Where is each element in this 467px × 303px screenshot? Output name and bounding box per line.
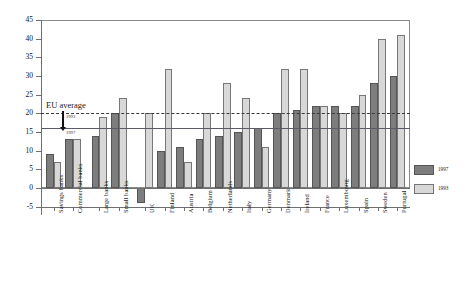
x-axis-category-label: Netherlands <box>226 181 233 213</box>
y-axis-tick-label: 10 <box>0 147 33 155</box>
bar-1993-belgium <box>203 113 211 188</box>
bar-1997-large-banks <box>92 136 100 188</box>
bar-1997-portugal <box>390 76 398 188</box>
bar-1997-netherlands <box>215 136 223 188</box>
y-axis-tick-label: 20 <box>0 109 33 117</box>
bar-1997-austria <box>176 147 184 188</box>
bar-1993-uk <box>145 113 153 188</box>
y-axis-tick <box>36 132 41 133</box>
bar-1997-luxembourg <box>331 106 339 188</box>
bar-1993-luxembourg <box>339 113 347 188</box>
x-axis-category-label: Spain <box>362 198 369 213</box>
x-axis-tick <box>300 207 301 211</box>
y-axis-tick-label: 35 <box>0 53 33 61</box>
bar-1993-austria <box>184 162 192 188</box>
legend-swatch-1993 <box>414 184 434 194</box>
x-axis-category-label: Denmark <box>284 188 291 212</box>
y-axis-tick <box>36 57 41 58</box>
y-axis-tick <box>36 151 41 152</box>
x-axis-category-label: Small banks <box>122 180 129 213</box>
x-axis-tick <box>339 207 340 211</box>
reference-line-1993 <box>41 113 410 114</box>
x-axis-category-label: Portugal <box>400 190 407 212</box>
y-axis-tick-label: 45 <box>0 16 33 24</box>
x-axis-tick <box>378 207 379 211</box>
y-axis-tick-label: 30 <box>0 72 33 80</box>
x-axis-tick <box>73 207 74 211</box>
reference-line-1997 <box>41 128 410 129</box>
x-axis-tick <box>262 207 263 211</box>
y-axis-line <box>41 20 42 215</box>
x-axis-category-label: Italy <box>245 200 252 212</box>
bar-1993-portugal <box>397 35 405 188</box>
x-axis-category-label: Sweden <box>381 192 388 213</box>
bar-1997-france <box>312 106 320 188</box>
x-axis-category-label: Savings banks <box>57 175 64 213</box>
bar-1993-italy <box>242 98 250 188</box>
bar-1993-spain <box>359 95 367 188</box>
bar-1997-sweden <box>370 83 378 188</box>
x-axis-tick <box>281 207 282 211</box>
y-axis-tick-label: 15 <box>0 128 33 136</box>
x-axis-category-label: France <box>323 195 330 213</box>
x-axis-tick <box>184 207 185 211</box>
x-axis-category-label: Austria <box>187 193 194 213</box>
legend-label-1997: 1997 <box>438 166 448 173</box>
x-axis-category-label: Luxembourg <box>342 179 349 213</box>
eu-average-annotation: EU average <box>46 101 86 110</box>
bar-1997-italy <box>234 132 242 188</box>
y-axis-tick <box>36 76 41 77</box>
y-axis-tick-label: 40 <box>0 35 33 43</box>
x-axis-category-label: Ireland <box>303 194 310 213</box>
bar-1993-netherlands <box>223 83 231 188</box>
bar-1997-germany <box>254 128 262 188</box>
y-axis-tick-label: -5 <box>0 203 33 211</box>
x-axis-tick <box>320 207 321 211</box>
y-axis-tick-label: 0 <box>0 184 33 192</box>
y-axis-tick-label: 25 <box>0 91 33 99</box>
x-axis-tick <box>99 207 100 211</box>
x-axis-category-label: Belgium <box>206 190 213 213</box>
bar-1997-denmark <box>273 113 281 188</box>
x-axis-tick <box>119 207 120 211</box>
y-axis-tick-label: 5 <box>0 165 33 173</box>
bar-1997-spain <box>351 106 359 188</box>
x-axis-tick <box>54 207 55 211</box>
bar-1997-small-banks <box>111 113 119 188</box>
bar-1997-uk <box>137 188 145 203</box>
x-axis-tick <box>397 207 398 211</box>
x-axis-category-label: Commercial banks <box>76 163 83 213</box>
x-axis-tick <box>165 207 166 211</box>
y-axis-tick <box>36 169 41 170</box>
bar-chart: -5051015202530354045 Savings banksCommer… <box>0 0 467 303</box>
bar-1993-germany <box>262 147 270 188</box>
x-axis-category-label: UK <box>148 203 155 212</box>
x-axis-tick <box>223 207 224 211</box>
x-axis-tick <box>145 207 146 211</box>
bar-1993-small-banks <box>119 98 127 188</box>
x-axis-category-label: Germany <box>265 188 272 212</box>
bar-1993-france <box>320 106 328 188</box>
legend-swatch-1997 <box>414 165 434 175</box>
y-axis-tick <box>36 95 41 96</box>
bar-1997-ireland <box>293 110 301 188</box>
eu-average-1997-label: 1997 <box>66 130 75 135</box>
legend-label-1993: 1993 <box>438 185 448 192</box>
bar-1997-finland <box>157 151 165 188</box>
bar-1997-commercial-banks <box>65 139 73 188</box>
bar-1997-savings-banks <box>46 154 54 188</box>
x-axis-category-label: Large banks <box>102 180 109 212</box>
y-axis-tick <box>36 20 41 21</box>
eu-average-1993-label: 1993 <box>66 114 75 119</box>
x-axis-tick <box>242 207 243 211</box>
x-axis-tick <box>359 207 360 211</box>
x-axis-category-label: Finland <box>168 192 175 212</box>
x-axis-tick <box>203 207 204 211</box>
bar-1997-belgium <box>196 139 204 188</box>
y-axis-tick <box>36 39 41 40</box>
